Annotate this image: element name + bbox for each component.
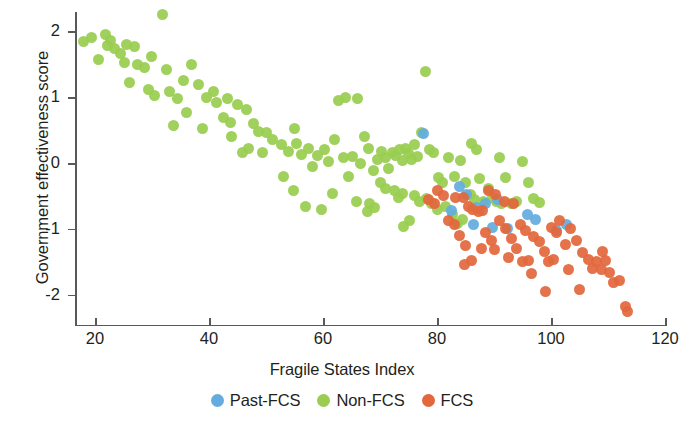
data-point xyxy=(121,39,132,50)
data-point xyxy=(355,158,366,169)
scatter-chart-figure: -2-101220406080100120 Government effecti… xyxy=(0,0,684,426)
data-point xyxy=(523,177,534,188)
x-tick-mark xyxy=(209,318,211,325)
data-point xyxy=(460,240,471,251)
data-point xyxy=(208,86,219,97)
chart-legend: Past-FCSNon-FCSFCS xyxy=(0,392,684,409)
data-point xyxy=(565,223,576,234)
data-point xyxy=(351,196,362,207)
data-point xyxy=(446,205,457,216)
data-point xyxy=(139,62,150,73)
data-point xyxy=(494,152,505,163)
data-point xyxy=(526,268,537,279)
legend-item[interactable]: Past-FCS xyxy=(211,392,301,409)
y-tick-mark xyxy=(68,295,75,297)
data-point xyxy=(398,221,409,232)
data-point xyxy=(563,264,574,275)
data-point xyxy=(597,246,608,257)
data-point xyxy=(489,244,500,255)
data-point xyxy=(438,190,449,201)
data-point xyxy=(343,171,354,182)
data-point xyxy=(316,204,327,215)
data-point xyxy=(124,77,135,88)
data-point xyxy=(523,255,534,266)
y-tick-mark xyxy=(68,31,75,33)
data-point xyxy=(511,243,522,254)
data-point xyxy=(539,246,550,257)
legend-item[interactable]: FCS xyxy=(422,392,474,409)
data-point xyxy=(459,259,470,270)
x-tick-mark xyxy=(95,318,97,325)
x-tick-label: 40 xyxy=(179,329,239,348)
data-point xyxy=(476,243,487,254)
data-point xyxy=(291,138,302,149)
legend-label: FCS xyxy=(441,392,474,409)
data-point xyxy=(222,93,233,104)
x-tick-label: 60 xyxy=(293,329,353,348)
data-point xyxy=(241,104,252,115)
data-point xyxy=(172,93,183,104)
data-point xyxy=(340,92,351,103)
data-point xyxy=(368,165,379,176)
data-point xyxy=(520,225,531,236)
data-point xyxy=(412,151,423,162)
data-point xyxy=(551,227,562,238)
data-point xyxy=(237,147,248,158)
data-point xyxy=(508,198,519,209)
data-point xyxy=(449,219,460,230)
data-point xyxy=(329,134,340,145)
data-point xyxy=(397,188,408,199)
data-point xyxy=(443,152,454,163)
data-point xyxy=(420,66,431,77)
y-axis-title: Government effectiveness score xyxy=(33,13,52,323)
data-point xyxy=(300,201,311,212)
data-point xyxy=(540,286,551,297)
legend-swatch-icon xyxy=(317,394,330,407)
x-tick-mark xyxy=(323,318,325,325)
legend-swatch-icon xyxy=(211,394,224,407)
data-point xyxy=(168,120,179,131)
data-point xyxy=(560,239,571,250)
data-point xyxy=(226,131,237,142)
x-tick-label: 120 xyxy=(635,329,684,348)
legend-item[interactable]: Non-FCS xyxy=(317,392,404,409)
data-point xyxy=(614,275,625,286)
data-point xyxy=(383,163,394,174)
legend-swatch-icon xyxy=(422,394,435,407)
legend-label: Past-FCS xyxy=(230,392,301,409)
data-point xyxy=(211,97,222,108)
x-tick-mark xyxy=(437,318,439,325)
data-point xyxy=(468,219,479,230)
data-point xyxy=(506,233,517,244)
data-point xyxy=(548,254,559,265)
y-tick-mark xyxy=(68,97,75,99)
data-point xyxy=(161,64,172,75)
y-axis-line xyxy=(75,12,77,326)
data-point xyxy=(327,188,338,199)
data-point xyxy=(225,117,236,128)
data-point xyxy=(622,306,633,317)
data-point xyxy=(574,284,585,295)
data-point xyxy=(503,252,514,263)
x-tick-mark xyxy=(551,318,553,325)
data-point xyxy=(571,235,582,246)
data-point xyxy=(319,144,330,155)
data-point xyxy=(257,147,268,158)
data-point xyxy=(517,156,528,167)
y-tick-mark xyxy=(68,229,75,231)
data-point xyxy=(363,143,374,154)
data-point xyxy=(119,57,130,68)
data-point xyxy=(149,90,160,101)
y-tick-mark xyxy=(68,163,75,165)
data-point xyxy=(146,51,157,62)
data-point xyxy=(530,214,541,225)
data-point xyxy=(307,161,318,172)
data-point xyxy=(86,32,97,43)
data-point xyxy=(477,205,488,216)
data-point xyxy=(157,9,168,20)
data-point xyxy=(288,185,299,196)
data-point xyxy=(500,172,511,183)
data-point xyxy=(455,155,466,166)
data-point xyxy=(418,128,429,139)
data-point xyxy=(197,123,208,134)
